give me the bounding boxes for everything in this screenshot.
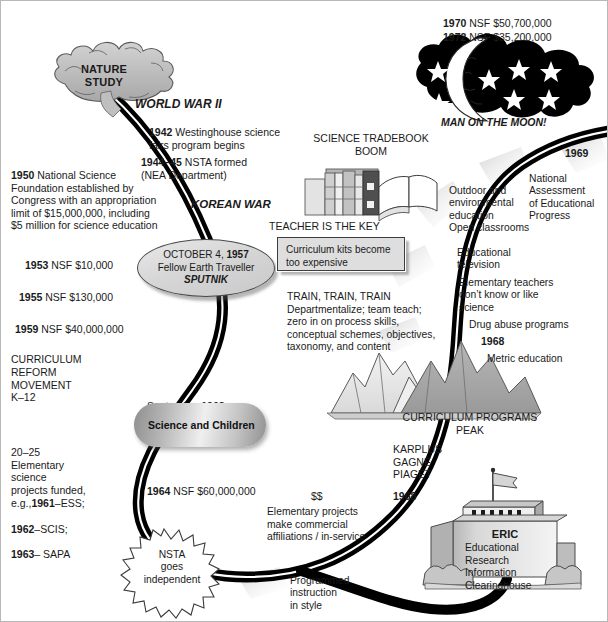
nsf-1950-year: 1950 <box>11 169 34 181</box>
nature-study-label: NATURE STUDY <box>69 63 139 89</box>
nsf-1959-year: 1959 <box>15 323 38 335</box>
nsf-1953-text: NSF $10,000 <box>48 259 113 271</box>
nsf-1972-year: 1972 <box>443 31 466 43</box>
korean-war-label: KOREAN WAR <box>191 198 271 212</box>
project-year-1963: 1963 <box>11 548 34 560</box>
westinghouse-year: 1942 <box>149 126 172 138</box>
project-year-1961: 1961 <box>31 497 54 509</box>
science-and-children-callout: Science and Children <box>134 403 266 447</box>
world-war-ii-label: WORLD WAR II <box>135 97 222 111</box>
nsf-1950-entry: 1950 National Science Foundation establi… <box>11 157 193 231</box>
train-block: TRAIN, TRAIN, TRAIN Departmentalize; tea… <box>287 291 457 354</box>
sputnik-lines: OCTOBER 4, 1957 Fellow Earth Traveller S… <box>158 249 255 287</box>
sputnik-line3: SPUTNIK <box>184 274 228 285</box>
curriculum-reform-label: CURRICULUM REFORM MOVEMENT K–12 <box>11 353 82 404</box>
curriculum-kits-callout: Curriculum kits become too expensive <box>277 237 405 271</box>
project-text-scis: –SCIS; <box>34 523 67 535</box>
curriculum-peak-label: CURRICULUM PROGRAMS PEAK <box>389 411 551 436</box>
nsf-1953-year: 1953 <box>25 259 48 271</box>
project-text-ess: –ESS; <box>55 497 85 509</box>
nsf-1964-text: NSF $60,000,000 <box>170 485 255 497</box>
nsf-1959-entry: 1959 NSF $40,000,000 <box>15 311 124 336</box>
sputnik-year: 1957 <box>226 249 248 260</box>
year-1968-upper-label: 1968 <box>481 335 504 347</box>
project-year-1962: 1962 <box>11 523 34 535</box>
educational-television-label: Educational television <box>457 247 547 272</box>
nsf-1955-entry: 1955 NSF $130,000 <box>19 279 113 304</box>
timeline-diagram: NATURE STUDY 1970 NSF $50,700,000 1972 N… <box>0 0 608 622</box>
nsf-1959-text: NSF $40,000,000 <box>38 323 123 335</box>
theorists-label: KARPLUS GAGNE PIAGET <box>393 443 442 481</box>
tradebook-boom-label: SCIENCE TRADEBOOK BOOM <box>311 132 431 157</box>
moon-caption: MAN ON THE MOON! <box>441 116 547 128</box>
drug-abuse-label: Drug abuse programs <box>469 319 569 331</box>
science-and-children-label: Science and Children <box>134 419 255 431</box>
dollars-label: $$ <box>311 490 323 502</box>
teacher-is-the-key-label: TEACHER IS THE KEY <box>269 220 380 232</box>
projects-funded-block: 20–25 Elementary science projects funded… <box>11 433 131 561</box>
project-text-sapa: – SAPA <box>34 548 70 560</box>
eric-acronym-label: ERIC <box>453 528 557 541</box>
nsf-1964-year: 1964 <box>147 485 170 497</box>
books-icon <box>305 169 437 221</box>
naep-label: National Assessment of Educational Progr… <box>529 173 605 222</box>
year-1968-lower-label: 1968 <box>393 490 416 502</box>
elementary-teachers-label: Elementary teachers don’t know or like s… <box>459 277 585 314</box>
commercial-affiliations-label: Elementary projects make commercial affi… <box>267 506 417 544</box>
nsf-1972-entry: 1972 NSF $35,200,000 <box>443 19 552 44</box>
sputnik-callout: OCTOBER 4, 1957 Fellow Earth Traveller S… <box>137 239 275 297</box>
nsf-1955-text: NSF $130,000 <box>42 291 113 303</box>
nsta-independent-label: NSTA goes independent <box>124 549 220 586</box>
nsf-1972-text: NSF $35,200,000 <box>466 31 551 43</box>
nsf-1955-year: 1955 <box>19 291 42 303</box>
curriculum-kits-text: Curriculum kits become too expensive <box>286 244 396 269</box>
eric-expansion-label: Educational Research Information Clearin… <box>465 542 565 592</box>
sputnik-line1-pre: OCTOBER 4, <box>163 249 226 260</box>
programmed-instruction-label: Programmed instruction in style <box>290 575 390 612</box>
metric-education-label: Metric education <box>487 353 563 365</box>
nsf-1953-entry: 1953 NSF $10,000 <box>25 247 113 272</box>
sputnik-line2: Fellow Earth Traveller <box>158 262 255 273</box>
year-1969-label: 1969 <box>565 147 588 159</box>
man-on-the-moon-icon <box>416 34 594 121</box>
nsf-1964-entry: 1964 NSF $60,000,000 <box>147 473 256 498</box>
outdoor-education-label: Outdoor and environmental education Open… <box>449 185 539 234</box>
